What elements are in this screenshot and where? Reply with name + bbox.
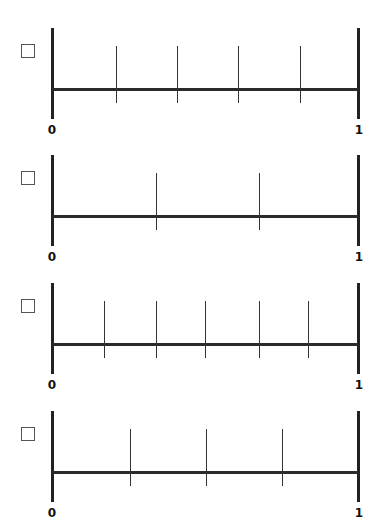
tick-mark (205, 301, 206, 358)
number-line-axis (52, 471, 358, 474)
start-endpoint-bar (51, 155, 54, 246)
tick-mark (156, 301, 157, 358)
number-line-axis (52, 215, 358, 218)
tick-mark (116, 46, 117, 103)
tick-mark (104, 301, 105, 358)
tick-mark (282, 429, 283, 486)
answer-checkbox[interactable] (21, 171, 35, 185)
tick-mark (259, 301, 260, 358)
start-label: 0 (45, 123, 59, 137)
start-endpoint-bar (51, 28, 54, 119)
end-endpoint-bar (357, 411, 360, 502)
tick-mark (238, 46, 239, 103)
tick-mark (130, 429, 131, 486)
tick-mark (206, 429, 207, 486)
end-endpoint-bar (357, 155, 360, 246)
tick-mark (308, 301, 309, 358)
end-endpoint-bar (357, 283, 360, 374)
start-label: 0 (45, 250, 59, 264)
answer-checkbox[interactable] (21, 44, 35, 58)
end-label: 1 (352, 123, 366, 137)
start-endpoint-bar (51, 411, 54, 502)
answer-checkbox[interactable] (21, 299, 35, 313)
start-label: 0 (45, 378, 59, 392)
tick-mark (300, 46, 301, 103)
answer-checkbox[interactable] (21, 427, 35, 441)
tick-mark (259, 173, 260, 230)
end-label: 1 (352, 250, 366, 264)
number-line-axis (52, 88, 358, 91)
tick-mark (156, 173, 157, 230)
tick-mark (177, 46, 178, 103)
start-label: 0 (45, 506, 59, 520)
end-label: 1 (352, 378, 366, 392)
start-endpoint-bar (51, 283, 54, 374)
end-endpoint-bar (357, 28, 360, 119)
end-label: 1 (352, 506, 366, 520)
